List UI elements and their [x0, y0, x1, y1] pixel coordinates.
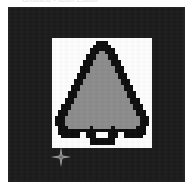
crosshair-cursor: [51, 147, 71, 167]
top-caption-strip: Untitled - Icon Editor: [0, 0, 193, 7]
crosshair-cursor-icon: [51, 147, 71, 167]
space-shuttle-icon: Space shuttle: [52, 38, 152, 148]
icon-canvas[interactable]: Space shuttle: [52, 38, 152, 148]
icon-preview-frame[interactable]: Space shuttle: [8, 7, 185, 182]
top-caption-text: Untitled - Icon Editor: [22, 0, 99, 4]
